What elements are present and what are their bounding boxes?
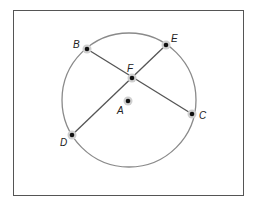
- point-label-a: A: [116, 105, 124, 116]
- segment-bc: [87, 49, 192, 114]
- point-label-f: F: [127, 63, 134, 74]
- segment-de: [72, 45, 166, 135]
- point-c: C: [188, 110, 208, 122]
- point-label-c: C: [199, 110, 207, 121]
- point-label-e: E: [171, 33, 178, 44]
- point-f: F: [127, 63, 137, 83]
- geometry-diagram: BEFACD: [0, 0, 260, 204]
- point-a: A: [116, 97, 133, 117]
- points: BEFACD: [60, 33, 207, 148]
- point-label-d: D: [60, 137, 67, 148]
- point-label-b: B: [73, 39, 80, 50]
- chords: [72, 45, 192, 135]
- point-e: E: [162, 33, 179, 50]
